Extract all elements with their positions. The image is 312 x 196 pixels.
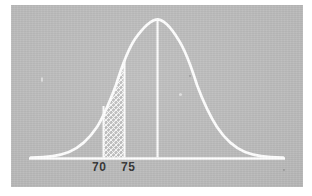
- normal-curve-plot: Bell-shaped normal curve on a grey plate…: [11, 5, 303, 187]
- scanned-figure-plate: Bell-shaped normal curve on a grey plate…: [11, 5, 303, 187]
- x-tick-label-70: 70: [92, 161, 106, 173]
- x-tick-label-75: 75: [121, 161, 135, 173]
- figure-container: Bell-shaped normal curve on a grey plate…: [0, 0, 312, 196]
